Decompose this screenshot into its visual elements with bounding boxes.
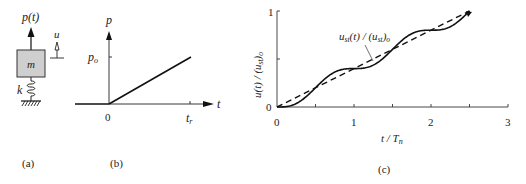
b-x-axis-label: t (217, 97, 221, 111)
static-response-dashed-line (277, 11, 470, 107)
c-x-tick-2: 2 (428, 116, 434, 128)
spring-label: k (17, 83, 23, 97)
force-arrow-icon (28, 27, 35, 50)
c-annotation-leader (365, 45, 373, 61)
c-x-tick-0: 0 (274, 116, 280, 128)
mass-label: m (27, 58, 35, 70)
panel-a-caption: (a) (22, 157, 35, 170)
spring-icon (27, 77, 35, 101)
displacement-label: u (54, 28, 60, 40)
c-x-axis-label: t / Tn (381, 132, 403, 146)
panel-a-sdof-system: p(t) m u k (17, 10, 64, 170)
b-y-axis-label: p (105, 13, 112, 27)
panel-b-ramp-force: p po t tr 0 (b) (75, 13, 221, 170)
c-y-tick-1: 1 (268, 6, 274, 18)
b-tr-label: tr (186, 111, 193, 126)
b-x-axis-arrow-icon (203, 101, 214, 107)
ground-hatch-icon (21, 101, 41, 106)
c-x-tick-3: 3 (505, 116, 511, 128)
c-x-tick-1: 1 (351, 116, 357, 128)
displacement-arrow-icon (50, 42, 64, 58)
panel-c-response-chart: 1 0 0 1 2 3 t / Tn u(t) / (ust)o ust(t) … (251, 6, 511, 176)
figure: p(t) m u k (0, 0, 526, 184)
panel-c-caption: (c) (378, 163, 391, 176)
panel-b-caption: (b) (110, 157, 123, 170)
c-y-tick-0: 0 (266, 101, 272, 113)
b-origin-label: 0 (105, 111, 111, 123)
b-y-axis-arrow-icon (106, 31, 112, 40)
b-po-label: po (87, 50, 98, 65)
c-y-axis-label: u(t) / (ust)o (251, 52, 265, 98)
c-annotation-label: ust(t) / (ust)o (339, 30, 390, 44)
b-ramp-line (109, 57, 191, 104)
force-label: p(t) (21, 10, 39, 24)
